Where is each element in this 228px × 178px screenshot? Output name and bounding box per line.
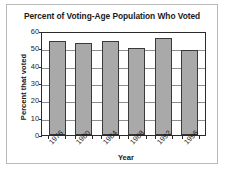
bar-slot <box>97 33 124 135</box>
chart-title: Percent of Voting-Age Population Who Vot… <box>7 11 217 21</box>
bar-slot <box>150 33 177 135</box>
x-axis-title: Year <box>41 153 211 162</box>
bar-slot <box>124 33 151 135</box>
bar-1992 <box>155 38 172 135</box>
plot-area <box>41 32 206 136</box>
bar-1980 <box>75 43 92 135</box>
bar-1976 <box>49 41 66 135</box>
chart-frame: Percent of Voting-Age Population Who Vot… <box>6 4 218 164</box>
bar-slot <box>71 33 98 135</box>
bar-1988 <box>128 48 145 135</box>
bar-slot <box>44 33 71 135</box>
y-axis-tick-marks <box>7 32 43 136</box>
bar-series <box>42 33 205 135</box>
bar-slot <box>177 33 204 135</box>
bar-1996 <box>181 50 198 135</box>
bar-1984 <box>102 41 119 135</box>
